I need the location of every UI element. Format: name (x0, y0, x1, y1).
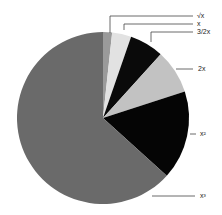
leader-line (124, 24, 193, 30)
slice-label: 3/2x (197, 28, 211, 35)
slice-label: 2x (198, 65, 206, 72)
pie-chart: √xx3/2x2xx²x³ (0, 0, 222, 215)
leader-line (151, 32, 193, 42)
slice-labels: √xx3/2x2xx²x³ (197, 12, 211, 199)
slice-label: x³ (200, 192, 207, 199)
slice-label: x² (200, 130, 207, 137)
slice-label: x (197, 20, 201, 27)
leader-line (110, 16, 193, 33)
pie-slices (17, 32, 189, 204)
slice-label: √x (197, 12, 205, 19)
